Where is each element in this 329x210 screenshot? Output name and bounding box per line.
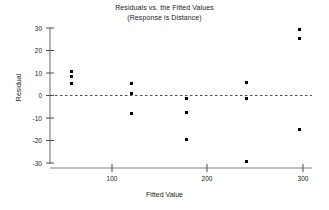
- data-point: [185, 97, 188, 100]
- data-point: [70, 70, 73, 73]
- y-tick-label-minus30: -30: [18, 160, 42, 167]
- data-point: [130, 112, 133, 115]
- data-point: [298, 128, 301, 131]
- y-tick-label-20: 20: [18, 47, 42, 54]
- data-point: [298, 37, 301, 40]
- x-tick-label-300: 300: [288, 175, 318, 182]
- data-point: [245, 160, 248, 163]
- x-tick-label-200: 200: [192, 175, 222, 182]
- x-axis-label: Fitted Value: [0, 191, 329, 198]
- y-tick-label-10: 10: [18, 70, 42, 77]
- data-point: [130, 92, 133, 95]
- y-axis-label: Residual: [15, 58, 22, 118]
- residual-plot-figure: Residuals vs. the Fitted Values (Respons…: [0, 0, 329, 210]
- x-tick-label-100: 100: [97, 175, 127, 182]
- data-point: [185, 111, 188, 114]
- data-point: [70, 82, 73, 85]
- y-tick-label-0: 0: [18, 92, 42, 99]
- data-point: [185, 138, 188, 141]
- data-point: [298, 28, 301, 31]
- y-tick-label-30: 30: [18, 25, 42, 32]
- data-point: [130, 82, 133, 85]
- data-point: [245, 97, 248, 100]
- y-tick-label-minus10: -10: [18, 115, 42, 122]
- data-point: [70, 75, 73, 78]
- y-tick-label-minus20: -20: [18, 137, 42, 144]
- plot-area: 30 20 10 0 -10 -20 -30 100 200 300 Resid…: [0, 0, 329, 210]
- data-point: [245, 81, 248, 84]
- chart-axes: [0, 0, 329, 210]
